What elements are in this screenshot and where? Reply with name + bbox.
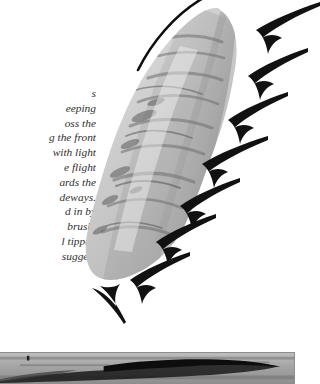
arrow-3 [228,92,288,144]
wing-wash-body [40,0,320,324]
wing-svg [40,0,320,324]
arrow-1 [256,2,320,54]
second-figure-panel [0,352,295,384]
book-page: d the fore nd used ings and s eeping oss… [0,0,320,384]
bottom-figure-svg [0,353,294,383]
arrow-8 [92,284,126,324]
wing-brush-illustration [40,0,320,324]
arrow-2 [248,48,308,100]
ink-speck [27,356,29,361]
